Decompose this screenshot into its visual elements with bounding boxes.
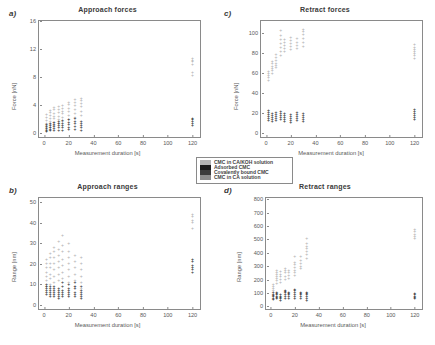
plot-area-d: 0100200300400500600700800020406080100120: [265, 197, 423, 310]
data-point: [305, 237, 308, 240]
data-point: [293, 261, 296, 264]
panel-approach-ranges: b) Approach ranges 010203040500204060801…: [0, 172, 215, 345]
data-point: [52, 262, 55, 265]
data-point: [80, 256, 83, 259]
panel-approach-forces: a) Approach forces 048121602040608010012…: [0, 0, 215, 172]
data-point: [191, 258, 194, 261]
y-tick-label: 16: [30, 18, 39, 24]
plot-area-b: 01020304050020406080100120: [38, 197, 201, 310]
data-point: [284, 289, 287, 292]
data-point: [52, 275, 55, 278]
data-point: [80, 268, 83, 271]
x-tick-label: 60: [337, 137, 343, 146]
y-tick-label: 4: [33, 102, 39, 108]
data-point: [279, 270, 282, 273]
data-point: [271, 60, 274, 63]
data-point: [274, 111, 277, 114]
data-point: [73, 266, 76, 269]
y-tick-label: 40: [252, 90, 261, 96]
x-tick-label: 80: [140, 309, 146, 318]
data-point: [80, 120, 83, 123]
data-point: [49, 109, 52, 112]
y-tick-label: 500: [254, 236, 266, 242]
y-tick-label: 20: [252, 110, 261, 116]
data-point: [271, 112, 274, 115]
y-tick-label: 400: [254, 250, 266, 256]
data-point: [73, 260, 76, 263]
data-point: [299, 259, 302, 262]
data-point: [287, 291, 290, 294]
panel-title-b: Approach ranges: [0, 183, 215, 190]
data-point: [413, 228, 416, 231]
legend-swatch-3: [200, 175, 211, 180]
x-tick-label: 0: [42, 309, 45, 318]
data-point: [52, 112, 55, 115]
data-point: [302, 41, 305, 44]
data-point: [289, 113, 292, 116]
y-tick-label: 8: [33, 74, 39, 80]
panel-retract-ranges: d) Retract ranges 0100200300400500600700…: [215, 172, 435, 345]
panel-retract-forces: c) Retract forces 0204060801000204060801…: [215, 0, 435, 172]
x-axis-label-a: Measurement duration [s]: [0, 150, 215, 156]
x-tick-label: 120: [410, 137, 419, 146]
data-point: [413, 108, 416, 111]
data-point: [57, 273, 60, 276]
data-point: [45, 123, 48, 126]
data-point: [272, 283, 275, 286]
data-point: [295, 111, 298, 114]
data-point: [49, 262, 52, 265]
x-tick-label: 40: [90, 137, 96, 146]
data-point: [284, 275, 287, 278]
data-point: [49, 273, 52, 276]
data-point: [57, 266, 60, 269]
data-point: [52, 121, 55, 124]
data-point: [52, 268, 55, 271]
data-point: [57, 240, 60, 243]
x-tick-label: 40: [90, 309, 96, 318]
data-point: [302, 28, 305, 31]
data-point: [67, 283, 70, 286]
data-point: [191, 117, 194, 120]
data-point: [52, 285, 55, 288]
y-axis-label-d: Range [nm]: [236, 252, 242, 282]
y-tick-label: 200: [254, 277, 266, 283]
y-tick-label: 10: [30, 281, 39, 287]
data-point: [279, 42, 282, 45]
x-axis-label-c: Measurement duration [s]: [221, 150, 435, 156]
data-point: [61, 119, 64, 122]
data-point: [45, 271, 48, 274]
data-point: [302, 45, 305, 48]
data-point: [73, 291, 76, 294]
data-point: [61, 271, 64, 274]
legend: CMC in CA/KOH solutionAdsorbed CMCCovale…: [196, 157, 293, 184]
data-point: [80, 275, 83, 278]
data-point: [73, 112, 76, 115]
y-tick-label: 100: [254, 290, 266, 296]
data-point: [191, 213, 194, 216]
data-point: [191, 59, 194, 62]
data-point: [57, 260, 60, 263]
data-point: [191, 264, 194, 267]
data-point: [283, 38, 286, 41]
x-tick-label: 0: [264, 137, 267, 146]
data-point: [57, 120, 60, 123]
x-tick-label: 40: [316, 309, 322, 318]
legend-label-3: CMC in CA solution: [214, 175, 273, 180]
data-point: [73, 281, 76, 284]
data-point: [302, 37, 305, 40]
data-point: [279, 34, 282, 37]
data-point: [279, 54, 282, 57]
x-tick-label: 20: [66, 137, 72, 146]
data-point: [275, 269, 278, 272]
legend-labels: CMC in CA/KOH solutionAdsorbed CMCCovale…: [214, 160, 273, 180]
y-tick-label: 0: [260, 303, 266, 309]
y-tick-label: 300: [254, 263, 266, 269]
data-point: [275, 291, 278, 294]
panel-title-d: Retract ranges: [215, 183, 435, 190]
data-point: [305, 242, 308, 245]
data-point: [49, 256, 52, 259]
plot-area-c: 020406080100020406080100120: [260, 20, 423, 138]
data-point: [67, 287, 70, 290]
data-point: [279, 38, 282, 41]
data-point: [61, 264, 64, 267]
